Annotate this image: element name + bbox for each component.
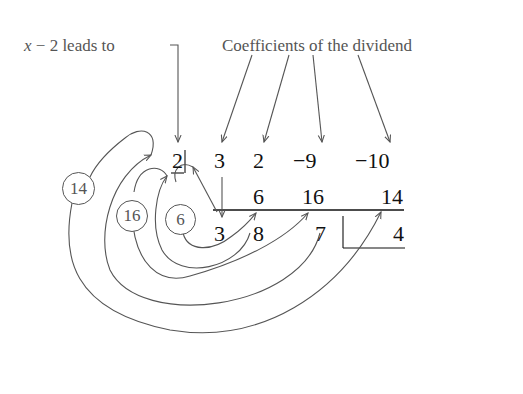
quotient-2: 8 [253, 223, 264, 245]
divisor-value: 2 [172, 150, 183, 172]
coef-2: 2 [253, 150, 264, 172]
circled-product-6: 6 [165, 204, 196, 235]
coef-1: 3 [214, 150, 225, 172]
divisor-note: x − 2 leads to [24, 37, 115, 54]
circled-product-14: 14 [62, 172, 95, 205]
product-2: 16 [302, 186, 324, 208]
remainder: 4 [393, 223, 404, 245]
synthetic-division-diagram: x − 2 leads to Coefficients of the divid… [0, 0, 523, 394]
quotient-1: 3 [214, 223, 225, 245]
product-3: 14 [381, 186, 403, 208]
quotient-3: 7 [315, 223, 326, 245]
product-1: 6 [253, 186, 264, 208]
mult-arrow-3 [193, 167, 217, 212]
circled-product-16: 16 [116, 200, 148, 232]
coef-arrow-2 [264, 55, 289, 142]
divisor-note-var: x [24, 36, 32, 55]
divisor-note-text: − 2 leads to [32, 36, 115, 55]
coef-arrow-neg9 [313, 55, 322, 142]
coef-3: −9 [293, 150, 316, 172]
coef-arrow-3 [222, 55, 252, 142]
coef-arrow-neg10 [358, 55, 390, 142]
divisor-pointer-arrow [170, 45, 178, 142]
to-circle-16 [134, 168, 167, 192]
coefficients-note: Coefficients of the dividend [222, 37, 412, 54]
coef-4: −10 [355, 150, 389, 172]
to-circle-14 [90, 131, 153, 177]
